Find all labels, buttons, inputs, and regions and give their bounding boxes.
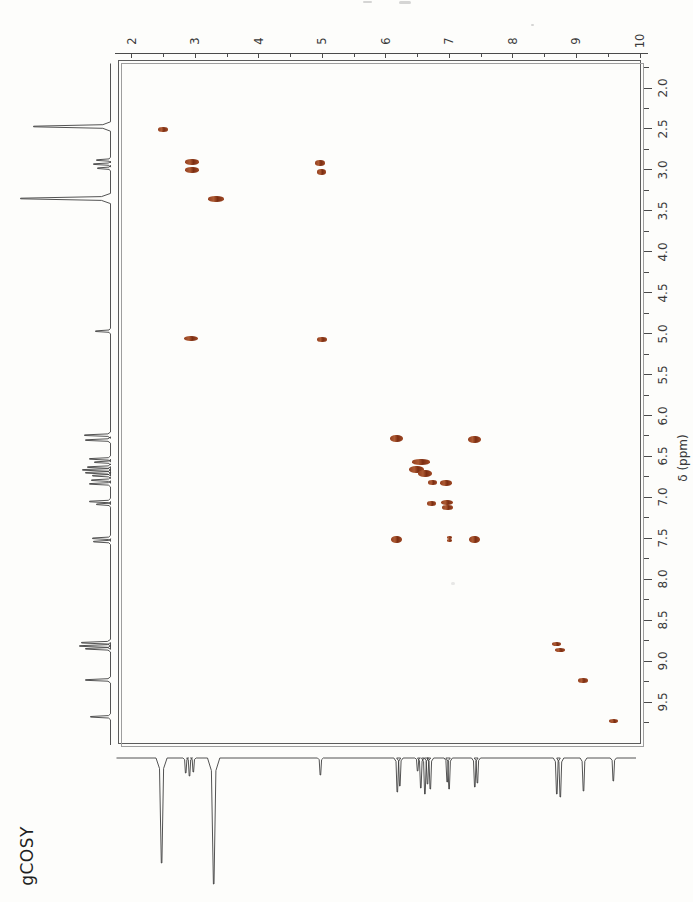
nmr-spectrum-page: 2345678910 2.02.53.03.54.04.55.05.56.06.…: [0, 0, 693, 902]
diagonal-peak: [185, 159, 199, 165]
plot-frame-shadow: [121, 63, 644, 748]
f1-tick-label: 10: [633, 34, 647, 49]
f1-projection-trace: [117, 758, 637, 884]
cross-peak: [317, 169, 326, 175]
diagonal-peak: [442, 505, 453, 510]
diagonal-peak: [317, 337, 327, 342]
f2-major-tick: [644, 210, 652, 211]
cross-peak: [440, 480, 452, 486]
f1-minor-tick: [481, 54, 482, 57]
f2-major-tick: [644, 292, 652, 293]
f1-tick-label: 5: [315, 37, 329, 44]
f2-major-tick: [644, 620, 652, 621]
experiment-title: gCOSY: [17, 826, 37, 886]
f2-minor-tick: [644, 108, 649, 109]
diagonal-peak: [185, 167, 199, 173]
f2-tick-label: 2.5: [656, 119, 670, 138]
f1-major-tick: [322, 54, 323, 59]
f1-minor-tick: [290, 54, 291, 57]
f2-major-tick: [644, 456, 652, 457]
cross-peak: [184, 336, 198, 341]
diagonal-peak: [469, 536, 480, 543]
f2-major-tick: [644, 169, 652, 170]
f2-axis-title: δ (ppm): [676, 434, 690, 481]
f2-major-tick: [644, 702, 652, 703]
f2-tick-label: 7.5: [656, 529, 670, 548]
f2-major-tick: [644, 579, 652, 580]
f2-tick-label: 9.0: [656, 652, 670, 671]
f1-tick-label: 9: [569, 37, 583, 44]
f2-major-tick: [644, 661, 652, 662]
f2-tick-label: 8.0: [656, 570, 670, 589]
f1-tick-label: 6: [379, 37, 393, 44]
f1-major-tick: [512, 54, 513, 59]
f2-minor-tick: [644, 722, 649, 723]
f2-minor-tick: [644, 476, 649, 477]
f2-tick-label: 4.0: [656, 242, 670, 261]
f2-tick-label: 3.0: [656, 160, 670, 179]
f1-minor-tick: [354, 54, 355, 57]
f2-minor-tick: [644, 640, 649, 641]
f2-major-tick: [644, 333, 652, 334]
f2-tick-label: 9.5: [656, 693, 670, 712]
cross-peak: [427, 501, 436, 506]
f2-major-tick: [644, 374, 652, 375]
f2-tick-label: 3.5: [656, 201, 670, 220]
f1-minor-tick: [227, 54, 228, 57]
f1-major-tick: [576, 54, 577, 59]
f2-minor-tick: [644, 149, 649, 150]
f1-tick-label: 2: [125, 37, 139, 44]
f1-major-tick: [449, 54, 450, 59]
scan-artifact: [531, 24, 534, 26]
f2-tick-label: 8.5: [656, 611, 670, 630]
f2-minor-tick: [644, 272, 649, 273]
f1-minor-tick: [417, 54, 418, 57]
f2-minor-tick: [644, 313, 649, 314]
f2-tick-label: 7.0: [656, 488, 670, 507]
f2-major-tick: [644, 538, 652, 539]
f1-tick-label: 8: [506, 37, 520, 44]
diagonal-peak: [418, 470, 432, 477]
f2-major-tick: [644, 88, 652, 89]
f1-minor-tick: [608, 54, 609, 57]
f2-minor-tick: [644, 231, 649, 232]
f2-minor-tick: [644, 681, 649, 682]
f1-major-tick: [258, 54, 259, 59]
f2-minor-tick: [644, 517, 649, 518]
f1-minor-tick: [163, 54, 164, 57]
f1-tick-label: 7: [442, 37, 456, 44]
f2-tick-label: 5.0: [656, 324, 670, 343]
f2-tick-label: 5.5: [656, 365, 670, 384]
f2-minor-tick: [644, 599, 649, 600]
f1-major-tick: [195, 54, 196, 59]
scan-artifact: [399, 1, 411, 4]
f2-minor-tick: [644, 67, 649, 68]
cross-peak: [391, 536, 402, 543]
f1-major-tick: [385, 54, 386, 59]
f2-minor-tick: [644, 190, 649, 191]
f2-tick-label: 6.5: [656, 447, 670, 466]
f2-major-tick: [644, 251, 652, 252]
f2-minor-tick: [644, 395, 649, 396]
f2-minor-tick: [644, 354, 649, 355]
f2-major-tick: [644, 497, 652, 498]
f1-tick-label: 4: [252, 37, 266, 44]
diagonal-peak: [609, 719, 618, 723]
f1-tick-label: 3: [188, 37, 202, 44]
f1-major-tick: [640, 54, 641, 59]
diagonal-peak: [390, 435, 403, 442]
f1-major-tick: [131, 54, 132, 59]
f2-tick-label: 2.0: [656, 78, 670, 97]
cross-peak: [468, 436, 481, 443]
f2-major-tick: [644, 128, 652, 129]
f2-tick-label: 4.5: [656, 283, 670, 302]
f2-tick-label: 6.0: [656, 406, 670, 425]
f1-minor-tick: [544, 54, 545, 57]
f2-minor-tick: [644, 435, 649, 436]
f2-projection-trace: [21, 64, 111, 746]
f2-major-tick: [644, 415, 652, 416]
f2-minor-tick: [644, 558, 649, 559]
scan-artifact: [363, 1, 372, 3]
